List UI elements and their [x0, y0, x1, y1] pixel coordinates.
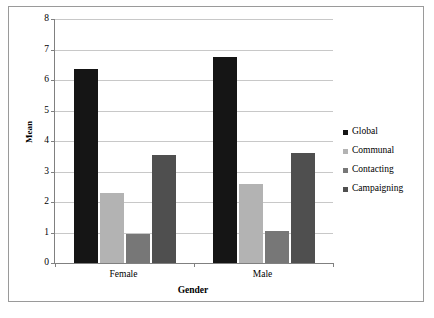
x-axis-title: Gender — [54, 285, 332, 295]
legend-item-global[interactable]: Global — [343, 127, 423, 137]
chart-legend: GlobalCommunalContactingCampaigning — [343, 127, 423, 203]
y-axis-tickmark — [51, 50, 55, 51]
x-axis-separator-tick — [194, 263, 195, 267]
legend-item-campaigning[interactable]: Campaigning — [343, 184, 423, 194]
bar-global-male — [213, 57, 237, 263]
plot-area — [54, 19, 333, 264]
y-axis-tick-label: 5 — [31, 106, 49, 116]
legend-label: Global — [352, 127, 378, 137]
y-axis-tick-label: 6 — [31, 75, 49, 85]
bar-global-female — [74, 69, 98, 263]
y-axis-tick-label: 2 — [31, 197, 49, 207]
y-axis-tickmark — [51, 141, 55, 142]
y-axis-tickmark — [51, 19, 55, 20]
legend-item-contacting[interactable]: Contacting — [343, 165, 423, 175]
y-axis-tick-label: 0 — [31, 258, 49, 268]
legend-label: Campaigning — [352, 184, 403, 194]
y-axis-tick-label: 1 — [31, 228, 49, 238]
y-axis-tick-label: 8 — [31, 14, 49, 24]
y-axis-tickmark — [51, 233, 55, 234]
y-axis-tickmark — [51, 202, 55, 203]
legend-label: Contacting — [352, 165, 394, 175]
y-axis-tickmark — [51, 80, 55, 81]
x-axis-end-tick-1 — [333, 263, 334, 267]
y-axis-tick-labels: 012345678 — [31, 19, 49, 263]
y-axis-tick-label: 4 — [31, 136, 49, 146]
y-axis-tickmark — [51, 111, 55, 112]
y-axis-tickmark — [51, 172, 55, 173]
bar-campaigning-male — [291, 153, 315, 263]
bar-group-male — [213, 19, 315, 263]
legend-swatch-icon-global — [343, 130, 348, 135]
bar-contacting-female — [126, 234, 150, 263]
legend-label: Communal — [352, 146, 394, 156]
x-axis-end-tick-0 — [55, 263, 56, 267]
chart-frame: Mean 012345678 Gender GlobalCommunalCont… — [8, 6, 424, 302]
legend-swatch-icon-contacting — [343, 168, 348, 173]
legend-swatch-icon-communal — [343, 149, 348, 154]
legend-item-communal[interactable]: Communal — [343, 146, 423, 156]
bar-contacting-male — [265, 231, 289, 263]
bar-communal-female — [100, 193, 124, 263]
bar-group-female — [74, 19, 176, 263]
y-axis-tick-label: 7 — [31, 45, 49, 55]
bar-communal-male — [239, 184, 263, 263]
x-axis-category-label-male: Male — [193, 269, 332, 279]
y-axis-tick-label: 3 — [31, 167, 49, 177]
legend-swatch-icon-campaigning — [343, 187, 348, 192]
bar-campaigning-female — [152, 155, 176, 263]
chart-plot-wrapper: Mean 012345678 Gender GlobalCommunalCont… — [9, 7, 425, 303]
x-axis-category-label-female: Female — [54, 269, 193, 279]
